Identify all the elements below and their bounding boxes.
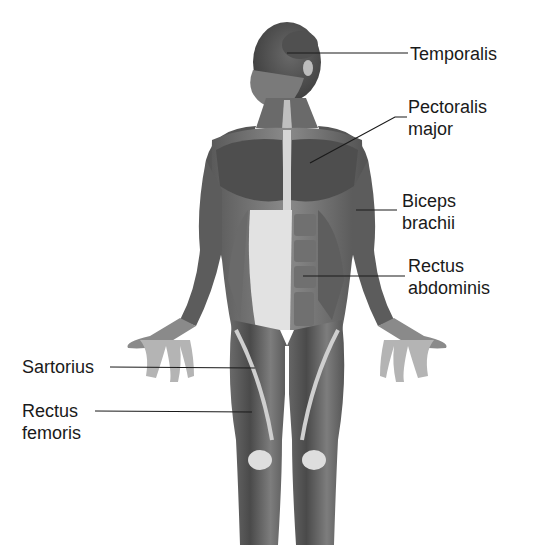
- leg-right: [286, 320, 344, 545]
- leader-rectus-femoris: [95, 411, 252, 412]
- rectus-abdominis-blocks: [294, 214, 316, 326]
- label-pectoralis-major-line2: major: [408, 118, 487, 140]
- label-rectus-abdominis-line2: abdominis: [408, 277, 490, 299]
- label-rectus-abdominis-line1: Rectus: [408, 255, 490, 277]
- label-rectus-abdominis: Rectus abdominis: [408, 255, 490, 299]
- label-rectus-femoris: Rectus femoris: [22, 400, 81, 444]
- label-sartorius: Sartorius: [22, 356, 94, 378]
- leg-left: [230, 320, 288, 545]
- label-sartorius-line1: Sartorius: [22, 356, 94, 378]
- label-temporalis: Temporalis: [410, 43, 497, 65]
- head: [250, 22, 321, 108]
- label-temporalis-line1: Temporalis: [410, 43, 497, 65]
- arm-left: [127, 160, 222, 382]
- label-biceps-brachii: Biceps brachii: [402, 190, 456, 234]
- label-biceps-brachii-line1: Biceps: [402, 190, 456, 212]
- label-biceps-brachii-line2: brachii: [402, 212, 456, 234]
- label-pectoralis-major-line1: Pectoralis: [408, 96, 487, 118]
- label-pectoralis-major: Pectoralis major: [408, 96, 487, 140]
- label-rectus-femoris-line2: femoris: [22, 422, 81, 444]
- label-rectus-femoris-line1: Rectus: [22, 400, 81, 422]
